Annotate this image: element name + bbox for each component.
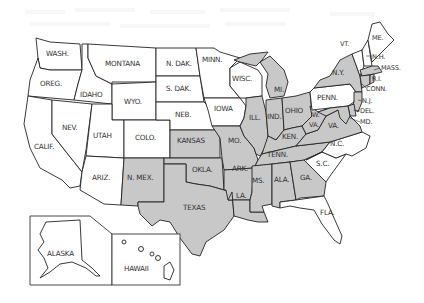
inset-alaska: ALASKA — [30, 216, 112, 285]
label-ariz: ARIZ. — [92, 173, 110, 182]
label-nj: N.J. — [362, 97, 372, 105]
label-tenn: TENN. — [266, 150, 288, 159]
label-la: LA. — [236, 191, 247, 200]
label-oreg: OREG. — [40, 79, 62, 88]
label-mo: MO. — [228, 136, 241, 145]
label-nev: NEV. — [62, 123, 77, 132]
us-map: WASH. OREG. CALIF. IDAHO NEV. MONTANA WY… — [0, 0, 424, 303]
label-ind: IND. — [267, 112, 282, 121]
label-del: DEL. — [360, 107, 374, 115]
label-nmex: N. MEX. — [127, 173, 154, 182]
label-nh: N.H. — [372, 53, 385, 61]
label-ny: N.Y. — [332, 68, 344, 77]
ghost-text-band — [25, 8, 375, 28]
label-fla: FLA. — [320, 208, 335, 217]
label-ark: ARK. — [232, 164, 248, 173]
label-utah: UTAH — [93, 131, 112, 140]
label-wyo: WYO. — [124, 97, 142, 106]
label-idaho: IDAHO — [80, 90, 103, 99]
inset-hawaii: HAWAII — [112, 234, 180, 285]
label-iowa: IOWA — [214, 104, 233, 113]
label-mi: MI. — [274, 85, 284, 94]
label-neb: NEB. — [175, 110, 191, 119]
label-ill: ILL. — [249, 113, 261, 122]
label-ga: GA. — [300, 173, 312, 182]
label-penn: PENN. — [317, 93, 338, 102]
label-ohio: OHIO — [285, 106, 304, 115]
state-fla — [280, 196, 342, 244]
label-montana: MONTANA — [105, 59, 140, 68]
label-ala: ALA. — [274, 175, 289, 184]
label-ken: KEN. — [282, 132, 298, 141]
label-okla: OKLA. — [192, 165, 213, 174]
label-sdak: S. DAK. — [166, 84, 191, 93]
state-ms — [250, 164, 272, 212]
label-mass: MASS. — [381, 64, 401, 72]
label-kansas: KANSAS — [177, 136, 205, 145]
label-va: VA. — [328, 121, 339, 130]
label-calif: CALIF. — [34, 142, 54, 151]
label-ndak: N. DAK. — [166, 59, 192, 68]
label-nc: N.C. — [330, 139, 344, 148]
label-ms: MS. — [252, 176, 264, 185]
label-vt: VT. — [340, 40, 349, 48]
label-texas: TEXAS — [182, 203, 206, 212]
label-hawaii: HAWAII — [124, 264, 149, 273]
label-wash: WASH. — [46, 49, 69, 58]
label-colo: COLO. — [135, 133, 156, 142]
label-ri: R.I. — [372, 75, 382, 83]
label-md: MD. — [360, 118, 372, 126]
state-nmex — [121, 158, 164, 206]
label-sc: S.C. — [316, 159, 329, 168]
label-conn: CONN. — [366, 85, 387, 93]
label-minn: MINN. — [202, 55, 222, 64]
label-me: ME. — [372, 34, 383, 42]
label-wisc: WISC. — [232, 74, 252, 83]
us-map-svg: WASH. OREG. CALIF. IDAHO NEV. MONTANA WY… — [0, 0, 424, 303]
label-alaska: ALASKA — [47, 249, 74, 258]
